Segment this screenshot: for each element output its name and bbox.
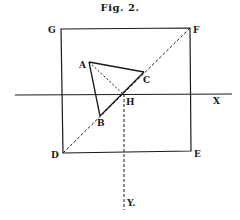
label-g: G <box>48 25 56 35</box>
label-f: F <box>193 25 200 35</box>
label-x: X <box>213 96 220 106</box>
label-b: B <box>97 118 105 128</box>
segment-ab <box>89 62 100 116</box>
segment-ac <box>89 62 144 72</box>
label-y: Y. <box>126 198 135 208</box>
label-d: D <box>51 150 59 160</box>
label-a: A <box>78 60 87 70</box>
label-c: C <box>143 75 150 85</box>
geometry-diagram: G F D E A C B H X Y. <box>0 0 240 220</box>
label-e: E <box>194 149 201 159</box>
label-h: H <box>126 97 135 107</box>
diagonal-dashed-df <box>63 28 190 153</box>
